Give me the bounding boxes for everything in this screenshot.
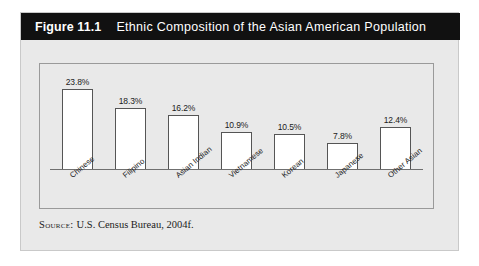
chart-plot-area: 23.8%18.3%16.2%10.9%10.5%7.8%12.4% Chine… xyxy=(39,63,434,209)
source-note: Source:U.S. Census Bureau, 2004f. xyxy=(39,219,194,230)
chart-inner: 23.8%18.3%16.2%10.9%10.5%7.8%12.4% Chine… xyxy=(40,64,433,208)
bar-value-label: 10.5% xyxy=(278,122,302,132)
bar-series: 23.8%18.3%16.2%10.9%10.5%7.8%12.4% xyxy=(50,73,423,169)
figure-container: Figure 11.1 Ethnic Composition of the As… xyxy=(20,12,459,251)
source-label: Source: xyxy=(39,219,74,230)
figure-title-bar: Figure 11.1 Ethnic Composition of the As… xyxy=(21,13,460,40)
bar-value-label: 16.2% xyxy=(172,103,196,113)
x-axis-label-slot: Korean xyxy=(274,170,305,208)
bar-value-label: 7.8% xyxy=(333,131,352,141)
bar-value-label: 23.8% xyxy=(66,77,90,87)
source-text: U.S. Census Bureau, 2004f. xyxy=(77,219,194,230)
x-axis-label-slot: Asian Indian xyxy=(168,170,199,208)
x-axis-label-slot: Chinese xyxy=(62,170,93,208)
bar-value-label: 12.4% xyxy=(384,115,408,125)
x-axis-label-slot: Filipino xyxy=(115,170,146,208)
figure-title: Ethnic Composition of the Asian American… xyxy=(116,20,426,34)
bar-group: 10.5% xyxy=(274,73,305,169)
bar-value-label: 18.3% xyxy=(119,96,143,106)
bar-value-label: 10.9% xyxy=(225,120,249,130)
x-axis-label-slot: Vietnamese xyxy=(221,170,252,208)
x-axis-label-slot: Other Asian xyxy=(380,170,411,208)
x-axis-label-slot: Japanese xyxy=(327,170,358,208)
x-axis-labels: ChineseFilipinoAsian IndianVietnameseKor… xyxy=(50,170,423,208)
figure-number: Figure 11.1 xyxy=(35,20,101,34)
bar-group: 18.3% xyxy=(115,73,146,169)
